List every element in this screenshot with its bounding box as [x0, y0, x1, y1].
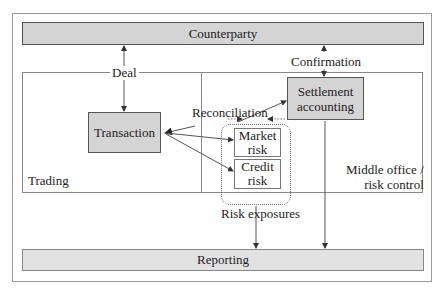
risk-exposures-label: Risk exposures [221, 207, 300, 220]
reconciliation-label: Reconciliation [192, 106, 268, 119]
connector-arrows [0, 0, 445, 295]
confirmation-label: Confirmation [291, 55, 361, 68]
deal-label: Deal [110, 66, 139, 79]
